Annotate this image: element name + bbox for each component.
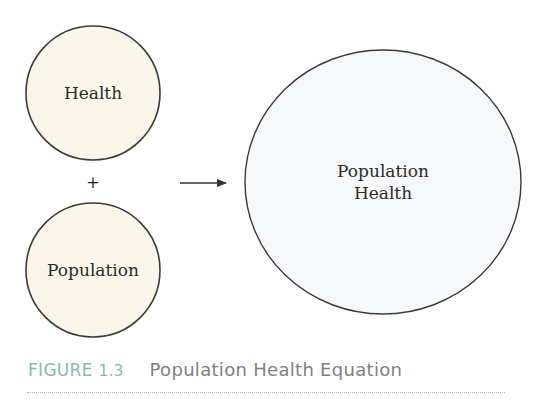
- figure-caption: FIGURE 1.3 Population Health Equation: [28, 359, 402, 380]
- health-label: Health: [64, 83, 122, 103]
- population-node: Population: [26, 203, 160, 337]
- population-health-label-line1: Population: [337, 161, 429, 181]
- caption-dotted-rule: [27, 392, 505, 393]
- population-health-diagram: Health + Population Population Health: [0, 0, 542, 412]
- population-health-node: Population Health: [245, 50, 521, 314]
- figure-title: Population Health Equation: [150, 359, 403, 380]
- figure-label: FIGURE: [28, 360, 93, 380]
- population-health-circle: [245, 50, 521, 314]
- plus-operator: +: [86, 173, 99, 192]
- health-node: Health: [26, 26, 160, 160]
- population-health-label-line2: Health: [354, 183, 412, 203]
- population-label: Population: [47, 260, 139, 280]
- figure-number: 1.3: [99, 362, 124, 380]
